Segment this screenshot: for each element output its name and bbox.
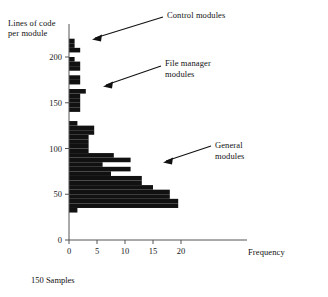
x-tick-label: 0 — [67, 246, 71, 256]
histogram-bar — [69, 158, 131, 163]
plot-svg: 05010015020005101520 — [0, 0, 328, 297]
histogram-bar — [69, 199, 178, 204]
histogram-bar — [69, 171, 111, 176]
histogram-bar — [69, 208, 77, 213]
histogram-bar — [69, 167, 131, 172]
y-tick-label: 0 — [58, 235, 62, 245]
histogram-bar — [69, 57, 75, 62]
arrow-line-filemanager — [106, 66, 161, 85]
histogram-bar — [69, 62, 80, 67]
histogram-bar — [69, 162, 103, 167]
histogram-bar — [69, 144, 89, 149]
histogram-bar — [69, 185, 153, 190]
histogram-bar — [69, 153, 114, 158]
histogram-bar — [69, 94, 80, 99]
histogram-bar — [69, 43, 75, 48]
histogram-bar — [69, 89, 86, 94]
histogram-bar — [69, 203, 178, 208]
y-tick-label: 100 — [49, 144, 62, 154]
x-tick-label: 5 — [95, 246, 99, 256]
arrows-layer — [92, 17, 211, 165]
histogram-bar — [69, 135, 89, 140]
histogram-bar — [69, 126, 94, 131]
histogram-bar — [69, 39, 75, 44]
y-tick-label: 150 — [49, 98, 62, 108]
histogram-bar — [69, 190, 170, 195]
x-tick-label: 10 — [121, 246, 130, 256]
histogram-bar — [69, 149, 89, 154]
histogram-bar — [69, 107, 80, 112]
histogram-chart: Lines of code per module Frequency 150 S… — [0, 0, 328, 297]
histogram-bar — [69, 176, 142, 181]
histogram-bar — [69, 139, 89, 144]
x-tick-label: 20 — [177, 246, 186, 256]
histogram-bar — [69, 98, 80, 103]
histogram-bar — [69, 194, 170, 199]
x-tick-label: 15 — [149, 246, 158, 256]
histogram-bar — [69, 181, 142, 186]
histogram-bar — [69, 75, 80, 80]
y-tick-label: 200 — [49, 52, 62, 62]
arrow-line-control — [95, 17, 163, 38]
arrow-head-filemanager — [103, 82, 113, 89]
histogram-bar — [69, 103, 80, 108]
histogram-bar — [69, 48, 80, 53]
histogram-bar — [69, 66, 80, 71]
arrow-head-control — [92, 35, 102, 42]
histogram-bar — [69, 130, 94, 135]
histogram-bar — [69, 121, 77, 126]
y-tick-label: 50 — [54, 189, 63, 199]
histogram-bar — [69, 80, 80, 85]
bars-layer — [69, 39, 178, 213]
arrow-head-general — [163, 158, 173, 165]
